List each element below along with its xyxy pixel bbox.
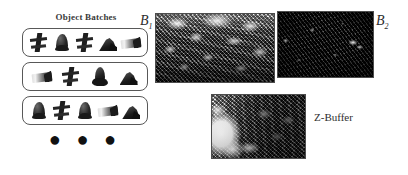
buffer-image-zbuffer [211, 94, 306, 159]
chair-object [29, 32, 49, 53]
object-batches-title: Object Batches [20, 12, 152, 22]
boot-object [90, 66, 110, 87]
buffer-b1-label: B1 [140, 13, 153, 31]
buffer-b2-label: B2 [376, 13, 389, 31]
ellipsis-dots: ● ● ● [22, 132, 148, 146]
buffer-zbuffer-label: Z-Buffer [314, 111, 353, 123]
wedge-object [98, 32, 118, 53]
buffer-b1-vignette [156, 14, 274, 82]
buffer-b2-label-subscript: 2 [385, 22, 389, 31]
buffer-image-b1 [155, 13, 275, 83]
buffer-b2-label-base: B [376, 13, 385, 28]
table-row [22, 62, 148, 91]
wedge-object [121, 100, 141, 121]
chair-object [75, 32, 95, 53]
buffer-b1-label-base: B [140, 13, 149, 28]
buffer-b1-label-subscript: 1 [149, 22, 153, 31]
buffer-zbuffer-vignette [212, 95, 305, 158]
plank-object [121, 32, 141, 53]
plank-object [32, 66, 52, 87]
buffer-image-b2 [277, 11, 374, 78]
chair-object [52, 100, 72, 121]
blob-object [29, 100, 49, 121]
table-row [22, 28, 148, 57]
chair-object [61, 66, 81, 87]
wedge-object [119, 66, 139, 87]
table-row [22, 96, 148, 125]
buffer-b2-vignette [278, 12, 373, 77]
figure-root: Object Batches ● ● ● B1 [0, 0, 408, 175]
plank-object [98, 100, 118, 121]
blob-object [52, 32, 72, 53]
object-batches-panel: Object Batches ● ● ● [20, 12, 152, 172]
blob-object [75, 100, 95, 121]
